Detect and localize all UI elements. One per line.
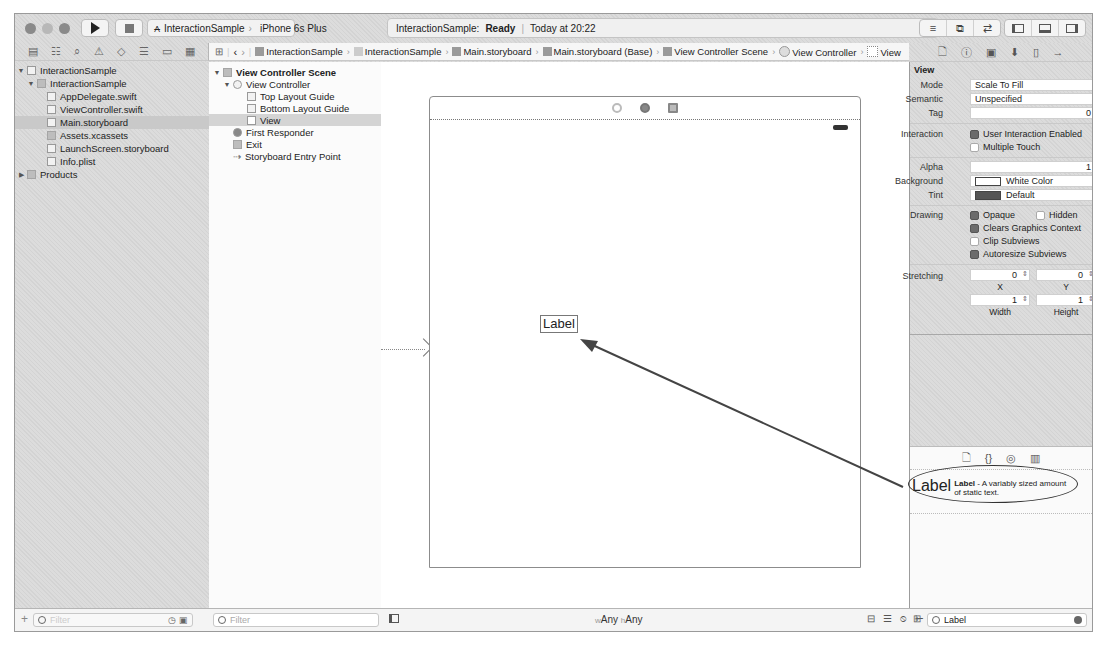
navigator-filter-input[interactable]: Filter ◷ ▣ — [33, 613, 193, 627]
zoom-window-button[interactable] — [59, 23, 70, 34]
related-items-icon[interactable]: ⊞ — [215, 46, 223, 57]
nav-item-main-storyboard[interactable]: Main.storyboard — [15, 116, 209, 129]
crumb-localization[interactable]: Main.storyboard (Base) — [543, 46, 653, 57]
find-navigator-tab[interactable]: ⌕ — [74, 45, 80, 58]
disclosure-open-icon[interactable]: ▼ — [213, 69, 221, 76]
first-responder-dock-icon[interactable] — [640, 103, 650, 113]
toggle-debug-area-button[interactable] — [1032, 20, 1059, 36]
breakpoint-navigator-tab[interactable]: ▭ — [162, 45, 172, 58]
library-filter-input[interactable]: Label — [927, 613, 1087, 627]
view-controller-dock-icon[interactable] — [612, 103, 622, 113]
identity-inspector-tab[interactable]: ▣ — [986, 46, 996, 59]
outline-filter-input[interactable]: Filter — [213, 613, 379, 627]
nav-item-viewcontroller[interactable]: ViewController.swift — [15, 103, 209, 116]
pin-button[interactable]: ⦸ — [900, 613, 907, 625]
multiple-touch-checkbox[interactable]: Multiple Touch — [970, 142, 1040, 152]
code-snippet-library-tab[interactable]: {} — [985, 452, 992, 464]
nav-item-products[interactable]: ▶Products — [15, 168, 209, 181]
object-library-tab[interactable]: ◎ — [1006, 452, 1016, 465]
assistant-editor-button[interactable]: ⧉ — [947, 20, 974, 36]
nav-item-infoplist[interactable]: Info.plist — [15, 155, 209, 168]
add-file-button[interactable]: + — [21, 612, 28, 626]
outline-item-exit[interactable]: Exit — [209, 138, 381, 150]
crumb-view[interactable]: View — [867, 46, 900, 58]
mode-select[interactable]: Scale To Fill▴ — [970, 79, 1093, 91]
recent-files-icon[interactable]: ◷ ▣ — [168, 615, 188, 625]
stretching-y-input[interactable]: 0⇕ — [1036, 269, 1093, 281]
test-navigator-tab[interactable]: ◇ — [117, 45, 125, 58]
nav-item-project[interactable]: ▼InteractionSample — [15, 64, 209, 77]
disclosure-open-icon[interactable]: ▼ — [17, 67, 25, 74]
attributes-inspector-tab[interactable]: ⬇ — [1010, 46, 1019, 59]
standard-editor-button[interactable]: ≡ — [920, 20, 947, 36]
debug-navigator-tab[interactable]: ☰ — [139, 45, 149, 58]
file-template-library-tab[interactable]: 🗋 — [962, 449, 971, 468]
opaque-checkbox[interactable]: Opaque — [970, 210, 1015, 220]
toggle-navigator-button[interactable] — [1005, 20, 1032, 36]
outline-item-first-responder[interactable]: First Responder — [209, 126, 381, 138]
tag-input[interactable]: 0⇕ — [970, 107, 1093, 119]
tint-color-select[interactable]: Default▴ — [970, 189, 1093, 201]
clears-graphics-context-checkbox[interactable]: Clears Graphics Context — [970, 223, 1081, 233]
disclosure-closed-icon[interactable]: ▶ — [17, 171, 25, 179]
outline-item-view[interactable]: View — [209, 114, 381, 126]
crumb-file[interactable]: Main.storyboard — [452, 46, 531, 57]
minimize-window-button[interactable] — [42, 23, 53, 34]
outline-item-entry-point[interactable]: ⇢Storyboard Entry Point — [209, 150, 381, 162]
crumb-project[interactable]: InteractionSample — [255, 46, 343, 57]
connections-inspector-tab[interactable]: → — [1053, 46, 1064, 58]
outline-item-bottom-layout-guide[interactable]: Bottom Layout Guide — [209, 102, 381, 114]
outline-item-scene[interactable]: ▼View Controller Scene — [209, 66, 381, 78]
stack-button[interactable]: ⊟ — [867, 613, 875, 625]
quick-help-tab[interactable]: ⓘ — [961, 44, 972, 60]
run-button[interactable] — [81, 19, 109, 37]
file-inspector-tab[interactable]: 🗋 — [938, 43, 947, 62]
stepper-icon[interactable]: ⇕ — [1088, 270, 1093, 278]
library-grid-toggle[interactable]: ⊞ — [913, 613, 921, 624]
toggle-utilities-button[interactable] — [1059, 20, 1085, 36]
media-library-tab[interactable]: ▥ — [1030, 452, 1040, 465]
version-editor-button[interactable]: ⇄ — [974, 20, 1000, 36]
crumb-view-controller[interactable]: View Controller — [779, 46, 856, 58]
stepper-icon[interactable]: ⇕ — [1022, 270, 1028, 278]
symbol-navigator-tab[interactable]: ☷ — [51, 45, 61, 58]
background-color-select[interactable]: White Color▴ — [970, 175, 1093, 187]
outline-item-top-layout-guide[interactable]: Top Layout Guide — [209, 90, 381, 102]
disclosure-open-icon[interactable]: ▼ — [27, 80, 35, 87]
crumb-group[interactable]: InteractionSample — [354, 46, 442, 57]
nav-item-appdelegate[interactable]: AppDelegate.swift — [15, 90, 209, 103]
stop-button[interactable] — [115, 19, 143, 37]
user-interaction-enabled-checkbox[interactable]: User Interaction Enabled — [970, 129, 1082, 139]
project-navigator-tab[interactable]: ▤ — [28, 45, 38, 58]
nav-item-launchscreen[interactable]: LaunchScreen.storyboard — [15, 142, 209, 155]
alpha-input[interactable]: 1⇕ — [970, 161, 1093, 173]
exit-dock-icon[interactable] — [668, 103, 678, 113]
clear-filter-icon[interactable] — [1074, 616, 1082, 624]
stretching-height-input[interactable]: 1⇕ — [1036, 294, 1093, 306]
view-controller-scene[interactable]: Label — [429, 96, 861, 568]
stretching-width-input[interactable]: 1⇕ — [970, 294, 1030, 306]
crumb-scene[interactable]: View Controller Scene — [663, 46, 768, 57]
back-button[interactable]: ‹ — [233, 46, 237, 58]
stretching-x-input[interactable]: 0⇕ — [970, 269, 1030, 281]
outline-item-view-controller[interactable]: ▼View Controller — [209, 78, 381, 90]
nav-item-group[interactable]: ▼InteractionSample — [15, 77, 209, 90]
issue-navigator-tab[interactable]: ⚠ — [94, 45, 104, 58]
close-window-button[interactable] — [25, 23, 36, 34]
semantic-select[interactable]: Unspecified▴ — [970, 93, 1093, 105]
disclosure-open-icon[interactable]: ▼ — [223, 81, 231, 88]
toggle-outline-button[interactable] — [389, 614, 399, 623]
report-navigator-tab[interactable]: ▦ — [185, 45, 195, 58]
nav-item-assets[interactable]: Assets.xcassets — [15, 129, 209, 142]
storyboard-canvas[interactable]: Label — [381, 62, 909, 609]
device-name[interactable]: iPhone 6s Plus — [260, 23, 327, 34]
align-button[interactable]: ☰ — [883, 613, 892, 625]
hidden-checkbox[interactable]: Hidden — [1036, 210, 1078, 220]
autoresize-subviews-checkbox[interactable]: Autoresize Subviews — [970, 249, 1067, 259]
scheme-selector[interactable]: ⩜ InteractionSample › iPhone 6s Plus — [147, 19, 295, 37]
size-inspector-tab[interactable]: ▯ — [1033, 46, 1039, 59]
forward-button[interactable]: › — [241, 46, 245, 58]
stepper-icon[interactable]: ⇕ — [1088, 295, 1093, 303]
label-element[interactable]: Label — [540, 315, 578, 333]
stepper-icon[interactable]: ⇕ — [1022, 295, 1028, 303]
